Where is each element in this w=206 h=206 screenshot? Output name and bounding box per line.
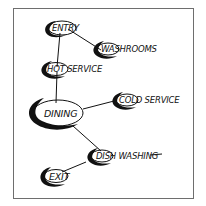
node-coldservice-label: COLD SERVICE xyxy=(119,95,180,105)
node-exit-label: EXIT xyxy=(49,171,71,182)
node-dining-label: DINING xyxy=(44,108,77,119)
node-washrooms-label: WASHROOMS xyxy=(101,44,158,54)
node-hotservice-label: HOT SERVICE xyxy=(47,64,103,74)
node-entry: ENTRY xyxy=(45,21,80,37)
bubble-diagram: ENTRY WASHROOMS HOT SERVICE DINING COLD … xyxy=(0,0,206,206)
node-coldservice: COLD SERVICE xyxy=(112,92,180,110)
edge-dining-coldservice xyxy=(83,101,114,109)
node-hotservice: HOT SERVICE xyxy=(41,61,102,79)
edge-dining-dishwashing xyxy=(73,126,101,151)
node-dishwashing: DISH WASHING xyxy=(87,148,158,166)
node-dishwashing-label: DISH WASHING xyxy=(96,151,159,161)
node-entry-label: ENTRY xyxy=(52,23,80,33)
edge-entry-hotservice xyxy=(57,33,60,67)
node-washrooms: WASHROOMS xyxy=(93,41,157,59)
